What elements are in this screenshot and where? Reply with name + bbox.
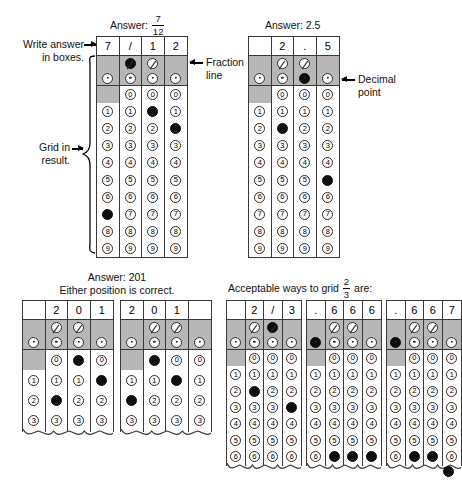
digit-bubble-4[interactable]: 4 bbox=[347, 418, 358, 429]
digit-bubble-9[interactable]: 9 bbox=[102, 243, 113, 254]
decimal-point-bubble[interactable]: . bbox=[28, 337, 39, 348]
digit-bubble-6[interactable]: 6 bbox=[409, 451, 420, 462]
digit-bubble-6[interactable]: 6 bbox=[446, 451, 457, 462]
digit-bubble-9[interactable]: 9 bbox=[254, 243, 265, 254]
digit-bubble-5[interactable]: 5 bbox=[254, 175, 265, 186]
fraction-line-bubble[interactable]: / bbox=[427, 322, 438, 333]
digit-bubble-4[interactable]: 4 bbox=[322, 157, 333, 168]
answer-box-3[interactable]: 0 bbox=[68, 301, 90, 320]
digit-bubble-4[interactable]: 4 bbox=[329, 418, 340, 429]
digit-bubble-2[interactable]: 2 bbox=[366, 386, 377, 397]
digit-bubble-5[interactable]: 5 bbox=[427, 435, 438, 446]
digit-bubble-0[interactable]: 0 bbox=[299, 89, 310, 100]
digit-bubble-6[interactable]: 6 bbox=[347, 451, 358, 462]
digit-bubble-5[interactable]: 5 bbox=[267, 435, 278, 446]
digit-bubble-4[interactable]: 4 bbox=[249, 418, 260, 429]
digit-bubble-6[interactable]: 6 bbox=[230, 451, 241, 462]
decimal-point-bubble[interactable]: . bbox=[286, 337, 297, 348]
digit-bubble-2[interactable]: 2 bbox=[286, 386, 297, 397]
digit-bubble-4[interactable]: 4 bbox=[230, 418, 241, 429]
digit-bubble-3[interactable]: 3 bbox=[347, 402, 358, 413]
digit-bubble-1[interactable]: 1 bbox=[194, 375, 205, 386]
digit-bubble-6[interactable]: 6 bbox=[390, 451, 401, 462]
fraction-line-bubble[interactable]: / bbox=[409, 322, 420, 333]
answer-grid-2-over-3[interactable]: .1234562/.0123456//.01234563.0123456 bbox=[226, 300, 302, 466]
digit-bubble-2[interactable]: 2 bbox=[230, 386, 241, 397]
digit-bubble-4[interactable]: 4 bbox=[390, 418, 401, 429]
digit-bubble-6[interactable]: 6 bbox=[125, 192, 136, 203]
digit-bubble-2[interactable]: 2 bbox=[390, 386, 401, 397]
digit-bubble-8[interactable]: 8 bbox=[102, 226, 113, 237]
digit-bubble-0[interactable]: 0 bbox=[322, 89, 333, 100]
answer-box-3[interactable]: 6 bbox=[344, 301, 362, 320]
answer-grid-point-667[interactable]: ..1234566/.01234566/.01234567.0123456 bbox=[386, 300, 462, 466]
digit-bubble-2[interactable]: 2 bbox=[28, 395, 39, 406]
digit-bubble-6[interactable]: 6 bbox=[147, 192, 158, 203]
digit-bubble-5[interactable]: 5 bbox=[249, 435, 260, 446]
digit-bubble-0[interactable]: 0 bbox=[96, 355, 107, 366]
digit-bubble-4[interactable]: 4 bbox=[125, 157, 136, 168]
answer-grid-fraction-7-12[interactable]: 7.123456789//.01234567891/.01234567892.0… bbox=[96, 36, 188, 258]
digit-bubble-2[interactable]: 2 bbox=[73, 395, 84, 406]
digit-bubble-5[interactable]: 5 bbox=[347, 435, 358, 446]
digit-bubble-1[interactable]: 1 bbox=[96, 375, 107, 386]
digit-bubble-6[interactable]: 6 bbox=[310, 451, 321, 462]
digit-bubble-3[interactable]: 3 bbox=[299, 140, 310, 151]
digit-bubble-1[interactable]: 1 bbox=[102, 106, 113, 117]
digit-bubble-1[interactable]: 1 bbox=[73, 375, 84, 386]
digit-bubble-2[interactable]: 2 bbox=[149, 395, 160, 406]
digit-bubble-5[interactable]: 5 bbox=[286, 435, 297, 446]
digit-bubble-5[interactable]: 5 bbox=[329, 435, 340, 446]
digit-bubble-5[interactable]: 5 bbox=[277, 175, 288, 186]
digit-bubble-4[interactable]: 4 bbox=[254, 157, 265, 168]
answer-box-1[interactable]: . bbox=[307, 301, 325, 320]
decimal-point-bubble[interactable]: . bbox=[446, 337, 457, 348]
digit-bubble-1[interactable]: 1 bbox=[171, 375, 182, 386]
digit-bubble-4[interactable]: 4 bbox=[446, 418, 457, 429]
decimal-point-bubble[interactable]: . bbox=[299, 73, 310, 84]
digit-bubble-3[interactable]: 3 bbox=[125, 140, 136, 151]
digit-bubble-3[interactable]: 3 bbox=[390, 402, 401, 413]
answer-box-2[interactable]: 2 bbox=[272, 37, 294, 56]
fraction-line-bubble[interactable]: / bbox=[277, 58, 288, 69]
digit-bubble-1[interactable]: 1 bbox=[149, 375, 160, 386]
answer-box-1[interactable] bbox=[227, 301, 245, 320]
digit-bubble-4[interactable]: 4 bbox=[102, 157, 113, 168]
digit-bubble-2[interactable]: 2 bbox=[446, 386, 457, 397]
decimal-point-bubble[interactable]: . bbox=[73, 337, 84, 348]
answer-grid-decimal-2-5[interactable]: .1234567892/.0123456789./.01234567895.01… bbox=[248, 36, 340, 258]
answer-box-4[interactable] bbox=[189, 301, 212, 320]
answer-box-4[interactable]: 2 bbox=[165, 37, 188, 56]
digit-bubble-3[interactable]: 3 bbox=[427, 402, 438, 413]
digit-bubble-2[interactable]: 2 bbox=[267, 386, 278, 397]
digit-bubble-1[interactable]: 1 bbox=[366, 369, 377, 380]
digit-bubble-1[interactable]: 1 bbox=[446, 369, 457, 380]
decimal-point-bubble[interactable]: . bbox=[427, 337, 438, 348]
digit-bubble-3[interactable]: 3 bbox=[322, 140, 333, 151]
digit-bubble-5[interactable]: 5 bbox=[102, 175, 113, 186]
digit-bubble-3[interactable]: 3 bbox=[102, 140, 113, 151]
answer-box-2[interactable]: 6 bbox=[406, 301, 424, 320]
decimal-point-bubble[interactable]: . bbox=[96, 337, 107, 348]
digit-bubble-6[interactable]: 6 bbox=[299, 192, 310, 203]
digit-bubble-3[interactable]: 3 bbox=[149, 415, 160, 426]
digit-bubble-6[interactable]: 6 bbox=[427, 451, 438, 462]
digit-bubble-7[interactable]: 7 bbox=[254, 209, 265, 220]
digit-bubble-8[interactable]: 8 bbox=[322, 226, 333, 237]
digit-bubble-6[interactable]: 6 bbox=[254, 192, 265, 203]
answer-box-2[interactable]: 0 bbox=[144, 301, 166, 320]
digit-bubble-5[interactable]: 5 bbox=[322, 175, 333, 186]
decimal-point-bubble[interactable]: . bbox=[230, 337, 241, 348]
decimal-point-bubble[interactable]: . bbox=[347, 337, 358, 348]
digit-bubble-7[interactable]: 7 bbox=[125, 209, 136, 220]
decimal-point-bubble[interactable]: . bbox=[366, 337, 377, 348]
digit-bubble-1[interactable]: 1 bbox=[277, 106, 288, 117]
digit-bubble-3[interactable]: 3 bbox=[310, 402, 321, 413]
decimal-point-bubble[interactable]: . bbox=[147, 73, 158, 84]
digit-bubble-5[interactable]: 5 bbox=[147, 175, 158, 186]
fraction-line-bubble[interactable]: / bbox=[149, 322, 160, 333]
digit-bubble-3[interactable]: 3 bbox=[366, 402, 377, 413]
digit-bubble-9[interactable]: 9 bbox=[277, 243, 288, 254]
digit-bubble-7[interactable]: 7 bbox=[170, 209, 181, 220]
digit-bubble-7[interactable]: 7 bbox=[277, 209, 288, 220]
